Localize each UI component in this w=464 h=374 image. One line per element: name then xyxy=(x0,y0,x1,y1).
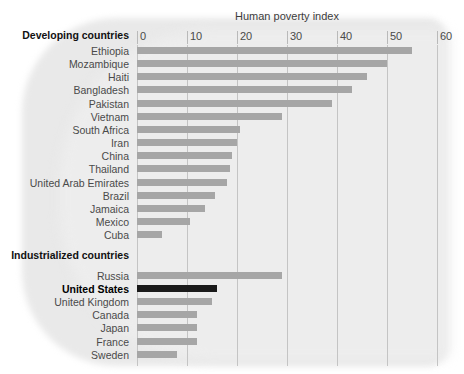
bar xyxy=(137,351,177,358)
bar xyxy=(137,205,205,212)
chart-title: Human poverty index xyxy=(137,10,437,22)
bar xyxy=(137,86,352,93)
plot-area xyxy=(137,45,445,366)
bar xyxy=(137,338,197,345)
bar xyxy=(137,60,387,67)
category-label: Canada xyxy=(92,310,129,321)
bar xyxy=(137,113,282,120)
category-label: Cuba xyxy=(104,230,129,241)
category-label-column: Developing countriesEthiopiaMozambiqueHa… xyxy=(0,45,133,366)
category-label: Russia xyxy=(97,271,129,282)
category-label: Brazil xyxy=(103,191,129,202)
category-label: Mozambique xyxy=(69,59,129,70)
category-label: United States xyxy=(62,284,129,295)
category-label: Haiti xyxy=(108,72,129,83)
bar xyxy=(137,139,237,146)
category-label: China xyxy=(102,151,129,162)
bar xyxy=(137,298,212,305)
group-header-industrialized-countries: Industrialized countries xyxy=(11,250,129,261)
x-axis-tick-label: 10 xyxy=(187,30,202,42)
group-header-developing-countries: Developing countries xyxy=(22,30,129,41)
bar xyxy=(137,311,197,318)
x-axis-tick-label: 40 xyxy=(337,30,352,42)
category-label: Jamaica xyxy=(90,204,129,215)
bar xyxy=(137,47,412,54)
x-axis-tick-label: 50 xyxy=(387,30,402,42)
x-axis-tick-label: 20 xyxy=(237,30,252,42)
bar xyxy=(137,152,232,159)
category-label: Bangladesh xyxy=(74,85,129,96)
category-label: South Africa xyxy=(72,125,129,136)
category-label: United Kingdom xyxy=(54,297,129,308)
bar xyxy=(137,324,197,331)
category-label: Pakistan xyxy=(89,99,129,110)
x-axis-tick-label: 0 xyxy=(137,30,146,42)
x-axis-tick-label: 30 xyxy=(287,30,302,42)
bar xyxy=(137,231,162,238)
category-label: Mexico xyxy=(96,217,129,228)
category-label: Ethiopia xyxy=(91,46,129,57)
category-label: Vietnam xyxy=(91,112,129,123)
x-axis-tick-label: 60 xyxy=(437,30,452,42)
bar xyxy=(137,100,332,107)
category-label: Iran xyxy=(111,138,129,149)
bar xyxy=(137,272,282,279)
bar xyxy=(137,126,240,133)
gridline xyxy=(437,45,438,366)
bar xyxy=(137,179,227,186)
human-poverty-index-chart: Human poverty index 0102030405060 Develo… xyxy=(0,0,464,374)
category-label: Sweden xyxy=(91,350,129,361)
gridline xyxy=(387,45,388,366)
bar xyxy=(137,192,215,199)
category-label: Japan xyxy=(100,323,129,334)
category-label: France xyxy=(96,337,129,348)
bar xyxy=(137,218,190,225)
bar xyxy=(137,73,367,80)
bar xyxy=(137,165,230,172)
bar xyxy=(137,285,217,292)
category-label: Thailand xyxy=(89,164,129,175)
category-label: United Arab Emirates xyxy=(30,178,129,189)
